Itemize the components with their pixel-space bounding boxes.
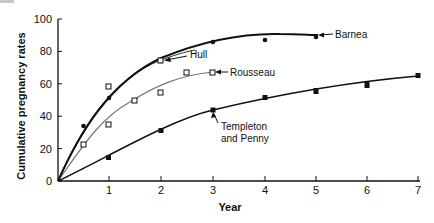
- annotation-hull: Hull: [164, 49, 207, 62]
- y-tick-label: 80: [40, 45, 52, 57]
- y-tick-label: 100: [34, 13, 52, 25]
- x-tick-label: 7: [415, 184, 421, 196]
- x-tick-label: 4: [262, 184, 268, 196]
- annotation-templeton: Templeton and Penny: [211, 112, 269, 144]
- x-tick-label: 1: [106, 184, 112, 196]
- annotation-rousseau: Rousseau: [215, 67, 275, 78]
- barnea-curve: [58, 34, 318, 181]
- templeton-label-line2: and Penny: [221, 133, 269, 144]
- x-axis-title: Year: [218, 201, 242, 213]
- y-axis-title: Cumulative pregnancy rates: [15, 32, 27, 179]
- x-tick-label: 2: [158, 184, 164, 196]
- annotation-barnea: Barnea: [318, 29, 368, 40]
- y-tick-label: 20: [40, 143, 52, 155]
- hull-label: Hull: [190, 49, 207, 60]
- x-tick-label: 6: [364, 184, 370, 196]
- hull-curve: [58, 50, 195, 181]
- x-tick-label: 5: [313, 184, 319, 196]
- templeton-markers: [106, 73, 421, 160]
- chart: 0 20 40 60 80 100 1 2 3 4 5 6 7 Year Cum…: [0, 0, 434, 223]
- y-tick-label: 40: [40, 110, 52, 122]
- y-tick-label: 0: [46, 175, 52, 187]
- rousseau-label: Rousseau: [230, 67, 275, 78]
- x-ticks: 1 2 3 4 5 6 7: [106, 176, 421, 196]
- axes: [58, 19, 420, 181]
- rousseau-curve: [58, 72, 213, 181]
- barnea-label: Barnea: [335, 29, 368, 40]
- y-tick-label: 60: [40, 78, 52, 90]
- templeton-label-line1: Templeton: [221, 121, 267, 132]
- x-tick-label: 3: [210, 184, 216, 196]
